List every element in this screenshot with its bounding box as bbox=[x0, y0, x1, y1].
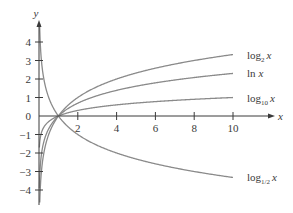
y-tick-label: 4 bbox=[26, 36, 32, 48]
curve-ln-x bbox=[39, 73, 233, 188]
logarithm-chart: log2xlnxlog10xlog1/2xx246810y−4−3−2−1012… bbox=[0, 0, 293, 213]
y-tick-label: 2 bbox=[26, 73, 32, 85]
y-tick-label: −1 bbox=[19, 129, 31, 141]
curves-group bbox=[39, 24, 233, 202]
y-tick-label: 3 bbox=[26, 55, 32, 67]
y-tick-label: −2 bbox=[19, 147, 31, 159]
y-axis-label: y bbox=[33, 7, 39, 19]
curve-log-1-2-x bbox=[40, 24, 233, 177]
y-tick-label: −4 bbox=[19, 184, 31, 196]
curve-label: lnx bbox=[247, 67, 264, 79]
curve-label: log10x bbox=[247, 92, 275, 107]
x-tick-label: 4 bbox=[114, 122, 120, 134]
curve-label: log1/2x bbox=[247, 171, 277, 186]
x-tick-label: 6 bbox=[153, 122, 159, 134]
y-tick-label: −3 bbox=[19, 166, 31, 178]
y-axis-arrow-icon bbox=[37, 20, 42, 27]
curve-label: log2x bbox=[247, 49, 272, 64]
x-tick-label: 8 bbox=[191, 122, 197, 134]
x-tick-label: 10 bbox=[228, 122, 240, 134]
x-axis-arrow-icon bbox=[268, 114, 275, 119]
y-tick-label: 0 bbox=[26, 110, 32, 122]
x-tick-label: 2 bbox=[75, 122, 81, 134]
x-axis-label: x bbox=[277, 110, 283, 122]
y-tick-label: 1 bbox=[26, 92, 32, 104]
